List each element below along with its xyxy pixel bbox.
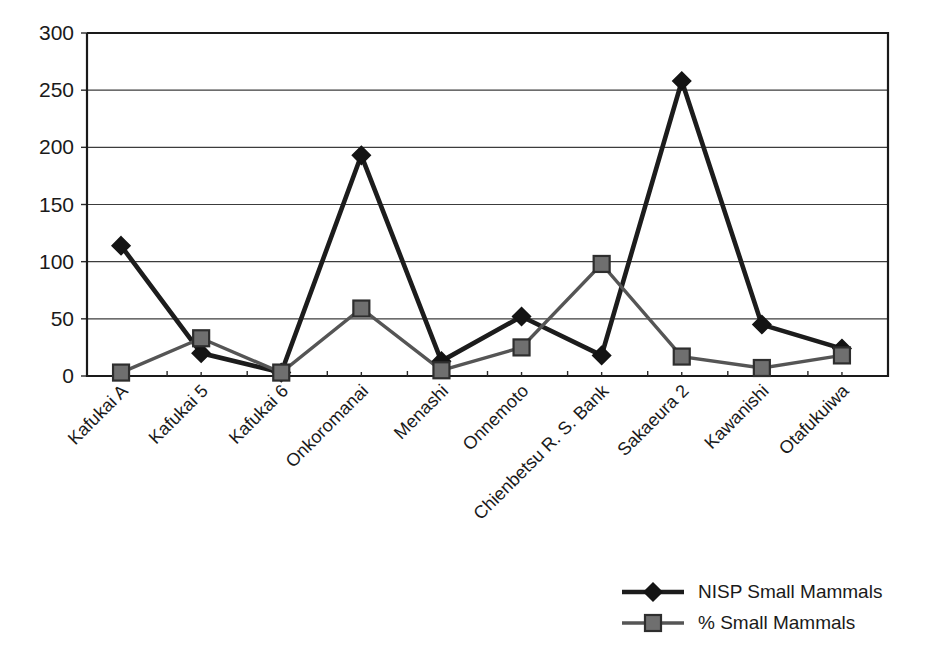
y-axis-tick-label: 200 [39,135,74,158]
data-point-marker [513,308,531,326]
y-axis-tick-label: 0 [62,364,74,387]
gridlines-group [87,90,888,319]
legend-label: % Small Mammals [698,612,855,633]
x-axis-tick-label: Otafukuiwa [775,380,854,459]
x-axis-tick-label: Onnemoto [459,381,533,455]
y-axis-tick-label: 50 [51,307,74,330]
y-axis-tick-label: 250 [39,78,74,101]
x-axis-tick-label: Onkoromanai [282,381,373,472]
data-point-marker [753,316,771,334]
data-point-marker [834,347,850,363]
series-line-1 [121,81,842,373]
x-axis-tick-label: Chienbetsu R. S. Bank [470,380,614,524]
data-point-marker [593,346,611,364]
x-axis-tick-label: Menashi [390,381,452,443]
x-axis-tick-label: Kafukai 5 [145,381,212,448]
y-axis-tick-label: 100 [39,250,74,273]
x-axis-tick-labels-group: Kafukai AKafukai 5Kafukai 6OnkoromanaiMe… [64,380,854,524]
chart-figure: 050100150200250300 Kafukai AKafukai 5Kaf… [0,0,942,647]
y-axis-tick-label: 150 [39,193,74,216]
data-point-marker [594,256,610,272]
x-axis-tick-label: Sakaeura 2 [613,381,692,460]
line-chart: 050100150200250300 Kafukai AKafukai 5Kaf… [0,0,942,647]
diamond-marker-icon [644,583,662,601]
x-axis-tick-label: Kafukai A [64,381,132,449]
square-marker-icon [645,615,661,631]
data-point-marker [113,365,129,381]
data-point-marker [514,339,530,355]
data-point-marker [353,301,369,317]
legend-label: NISP Small Mammals [698,581,882,602]
data-point-marker [273,365,289,381]
x-axis-tick-label: Kawanishi [701,381,773,453]
data-point-marker [193,330,209,346]
data-point-marker [673,72,691,90]
data-point-marker [754,360,770,376]
data-point-marker [352,146,370,164]
chart-legend: NISP Small Mammals% Small Mammals [622,581,882,633]
data-point-marker [674,349,690,365]
data-point-marker [433,362,449,378]
y-axis-tick-label: 300 [39,21,74,44]
y-axis-tick-labels-group: 050100150200250300 [39,21,74,387]
x-axis-tick-label: Kafukai 6 [225,381,292,448]
series-layer [112,72,851,382]
